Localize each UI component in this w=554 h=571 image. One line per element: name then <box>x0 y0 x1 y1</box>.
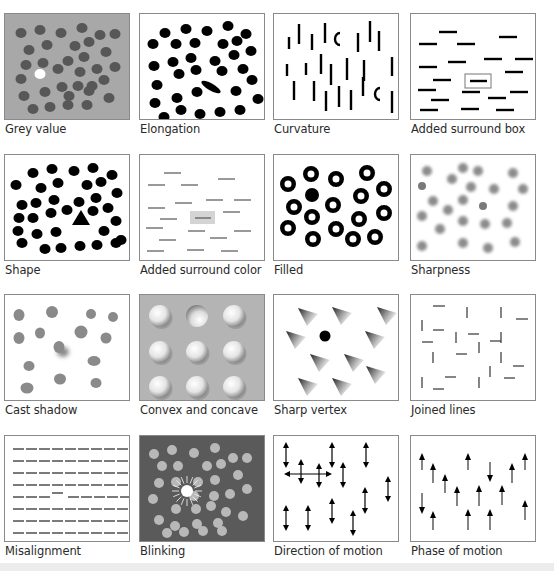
panel-filled <box>273 154 399 261</box>
illustration-added-surround-color <box>140 155 264 260</box>
label-grey-value: Grey value <box>5 122 66 136</box>
illustration-misalignment <box>5 436 129 541</box>
label-convex-and-concave: Convex and concave <box>140 403 258 417</box>
illustration-sharpness <box>411 155 535 260</box>
illustration-filled <box>274 155 398 260</box>
label-cast-shadow: Cast shadow <box>5 403 77 417</box>
label-sharp-vertex: Sharp vertex <box>274 403 347 417</box>
illustration-phase-of-motion <box>411 436 535 541</box>
illustration-curvature <box>274 14 398 119</box>
label-sharpness: Sharpness <box>411 263 470 277</box>
illustration-sharp-vertex <box>274 295 398 400</box>
panel-cast-shadow <box>4 294 130 401</box>
illustration-joined-lines <box>411 295 535 400</box>
label-blinking: Blinking <box>140 544 185 558</box>
label-elongation: Elongation <box>140 122 200 136</box>
illustration-blinking <box>140 436 264 541</box>
panel-convex-and-concave <box>139 294 265 401</box>
panel-misalignment <box>4 435 130 542</box>
illustration-shape <box>5 155 129 260</box>
panel-elongation <box>139 13 265 120</box>
illustration-grey-value <box>5 14 129 119</box>
panel-direction-of-motion <box>273 435 399 542</box>
label-misalignment: Misalignment <box>5 544 81 558</box>
illustration-cast-shadow <box>5 295 129 400</box>
label-filled: Filled <box>274 263 303 277</box>
label-shape: Shape <box>5 263 41 277</box>
panel-phase-of-motion <box>410 435 536 542</box>
panel-grey-value <box>4 13 130 120</box>
panel-joined-lines <box>410 294 536 401</box>
panel-added-surround-color <box>139 154 265 261</box>
label-direction-of-motion: Direction of motion <box>274 544 383 558</box>
label-joined-lines: Joined lines <box>411 403 476 417</box>
panel-added-surround-box <box>410 13 536 120</box>
illustration-convex-and-concave <box>140 295 264 400</box>
panel-curvature <box>273 13 399 120</box>
panel-sharp-vertex <box>273 294 399 401</box>
footer-band <box>0 563 554 571</box>
label-added-surround-box: Added surround box <box>411 122 525 136</box>
panel-shape <box>4 154 130 261</box>
illustration-elongation <box>140 14 264 119</box>
label-added-surround-color: Added surround color <box>140 263 261 277</box>
illustration-added-surround-box <box>411 14 535 119</box>
label-curvature: Curvature <box>274 122 330 136</box>
panel-sharpness <box>410 154 536 261</box>
panel-blinking <box>139 435 265 542</box>
label-phase-of-motion: Phase of motion <box>411 544 503 558</box>
illustration-direction-of-motion <box>274 436 398 541</box>
